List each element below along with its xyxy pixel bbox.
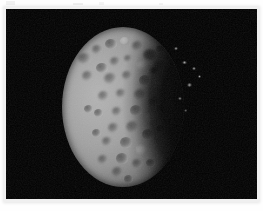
subject-phase: gibbous [0, 0, 1, 1]
terminator-shadow [62, 27, 184, 187]
astronomical-moon-photograph: Black-and-white spacecraft photograph of… [6, 9, 257, 199]
moon-scene [6, 9, 257, 199]
scan-artifact-1 [6, 1, 15, 5]
page-canvas: Black-and-white spacecraft photograph of… [0, 0, 263, 211]
scan-artifact-4 [159, 3, 163, 5]
scan-artifact-2 [73, 3, 83, 5]
subject-body-name: moon-disk [0, 0, 1, 1]
limb-speck-1 [182, 61, 187, 64]
limb-speck-4 [198, 75, 201, 78]
limb-speck-7 [184, 109, 187, 112]
limb-speck-3 [187, 83, 192, 87]
limb-speck-2 [192, 67, 196, 70]
scan-artifact-3 [99, 2, 104, 5]
limb-speck-6 [174, 47, 178, 50]
chart-title: Cratered moon disk, gibbous phase [0, 0, 1, 1]
